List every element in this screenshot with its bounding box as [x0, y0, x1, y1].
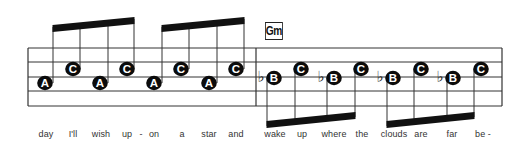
note-letter: B: [449, 72, 457, 84]
note-c: C: [119, 62, 135, 76]
lyric-syllable: wake: [264, 129, 285, 139]
noteheads: ACACACAC♭BC♭BC♭BC♭BC: [37, 62, 489, 90]
lyric-syllable: I'll: [69, 129, 78, 139]
note-letter: C: [297, 63, 305, 75]
lyric-syllable: on: [149, 129, 159, 139]
note-c: C: [413, 62, 429, 76]
note-letter: C: [357, 63, 365, 75]
note-letter: B: [330, 72, 338, 84]
note-c: C: [353, 62, 369, 76]
note-c: C: [293, 62, 309, 76]
flat-icon: ♭: [436, 68, 443, 86]
note-a: A: [37, 76, 53, 90]
flat-icon: ♭: [376, 68, 383, 86]
music-staff: ACACACAC♭BC♭BC♭BC♭BC: [0, 0, 511, 150]
note-letter: C: [232, 63, 240, 75]
note-letter: A: [205, 77, 213, 89]
note-c: C: [228, 62, 244, 76]
note-letter: A: [96, 77, 104, 89]
lyric-syllable: star: [201, 129, 216, 139]
note-letter: C: [177, 63, 185, 75]
note-b: ♭B: [317, 68, 341, 86]
lyric-syllable: be -: [475, 129, 491, 139]
flat-icon: ♭: [257, 68, 264, 86]
beam: [267, 112, 356, 128]
note-letter: A: [150, 77, 158, 89]
lyric-syllable: and: [228, 129, 243, 139]
chord-symbol: Gm: [265, 22, 283, 40]
beam: [387, 112, 475, 128]
lyric-syllable: a: [179, 129, 184, 139]
note-b: ♭B: [436, 68, 460, 86]
lyric-syllable: far: [447, 129, 458, 139]
lyric-syllable: clouds: [381, 129, 408, 139]
note-b: ♭B: [376, 68, 400, 86]
beam: [162, 17, 245, 32]
flat-icon: ♭: [317, 68, 324, 86]
note-letter: C: [69, 63, 77, 75]
lyric-syllable: up: [122, 129, 132, 139]
note-letter: C: [477, 63, 485, 75]
lyric-syllable: are: [414, 129, 427, 139]
note-letter: B: [389, 72, 397, 84]
note-a: A: [92, 76, 108, 90]
lyric-syllable: where: [321, 129, 346, 139]
note-letter: B: [270, 72, 278, 84]
note-b: ♭B: [257, 68, 281, 86]
note-letter: C: [417, 63, 425, 75]
note-letter: C: [123, 63, 131, 75]
lyric-syllable: wish: [92, 129, 110, 139]
note-c: C: [473, 62, 489, 76]
lyric-syllable: the: [356, 129, 369, 139]
lyric-syllable: -: [139, 129, 142, 139]
lyric-syllable: day: [39, 129, 54, 139]
beam: [53, 17, 135, 32]
note-a: A: [146, 76, 162, 90]
note-c: C: [173, 62, 189, 76]
note-a: A: [201, 76, 217, 90]
note-letter: A: [41, 77, 49, 89]
note-c: C: [65, 62, 81, 76]
lyric-syllable: up: [297, 129, 307, 139]
